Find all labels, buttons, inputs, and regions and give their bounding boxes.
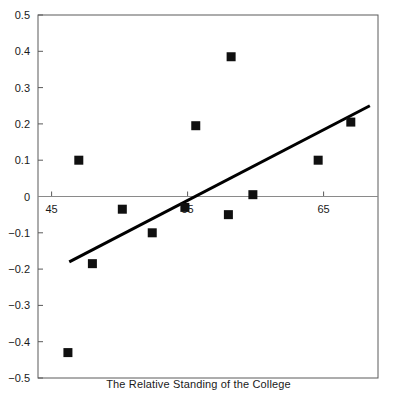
svg-text:0.4: 0.4 [15,45,30,57]
svg-text:65: 65 [317,203,329,215]
x-axis-title: The Relative Standing of the College [0,378,397,390]
svg-text:0.3: 0.3 [15,82,30,94]
svg-text:0.5: 0.5 [15,9,30,21]
svg-text:−0.1: −0.1 [8,227,30,239]
svg-text:0: 0 [24,191,30,203]
plot-canvas: −0.5−0.4−0.3−0.2−0.100.10.20.30.40.5 455… [0,0,397,397]
svg-text:−0.4: −0.4 [8,336,30,348]
svg-text:−0.3: −0.3 [8,299,30,311]
scatter-plot-figure: −0.5−0.4−0.3−0.2−0.100.10.20.30.40.5 455… [0,0,397,397]
svg-text:0.1: 0.1 [15,154,30,166]
data-points [63,52,355,357]
svg-text:−0.2: −0.2 [8,263,30,275]
svg-text:45: 45 [45,203,57,215]
trendline [69,106,370,262]
svg-text:0.2: 0.2 [15,118,30,130]
